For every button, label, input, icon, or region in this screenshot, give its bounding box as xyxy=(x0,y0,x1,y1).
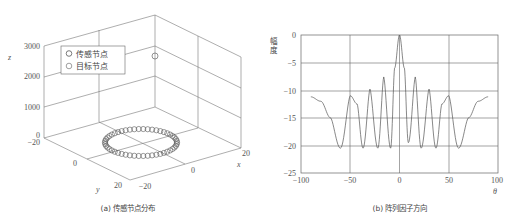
y-axis-label: y xyxy=(95,185,100,194)
sensor-node-marker xyxy=(165,131,170,136)
xaxis-tick-50: 50 xyxy=(445,176,453,185)
legend-item-sensor: 传感节点 xyxy=(76,49,108,59)
y-tick-20: 20 xyxy=(114,181,122,190)
caption-b: (b) 阵列因子方向 xyxy=(373,203,428,213)
yaxis-tick-neg20: −20 xyxy=(283,142,296,151)
yaxis-tick-0: 0 xyxy=(292,31,296,40)
z-tick-2000: 2000 xyxy=(24,72,40,81)
yaxis-tick-neg5: −5 xyxy=(287,59,296,68)
xaxis-tick-neg50: −50 xyxy=(344,176,357,185)
yaxis-label-char1: 幅 xyxy=(270,36,278,46)
legend-item-target: 目标节点 xyxy=(76,61,108,71)
sensor-node-marker xyxy=(119,151,124,156)
legend: 传感节点 目标节点 xyxy=(61,46,125,74)
z-axis-label: z xyxy=(7,53,12,62)
x-tick-20: 20 xyxy=(242,149,250,158)
x-tick-0: 0 xyxy=(191,166,195,175)
xaxis-label-theta: θ xyxy=(493,187,497,196)
sensor-node-marker xyxy=(115,150,120,155)
xaxis-tick-100: 100 xyxy=(491,176,503,185)
y-tick-neg20: −20 xyxy=(27,138,40,147)
z-tick-3000: 3000 xyxy=(24,42,40,51)
xaxis-tick-0: 0 xyxy=(398,176,402,185)
sensor-node-marker xyxy=(104,137,109,142)
x-tick-neg20: −20 xyxy=(139,182,152,191)
sensor-node-marker xyxy=(165,149,170,154)
chart-array-factor: 0 −5 −10 −15 −20 −25 幅 度 −100 −50 0 50 1… xyxy=(270,31,503,213)
3d-box-frame xyxy=(44,15,241,180)
figure: 3000 2000 1000 0 z −20 0 20 y −20 0 20 x… xyxy=(0,0,512,222)
sensor-node-marker xyxy=(173,143,178,148)
caption-a: (a) 传感节点分布 xyxy=(101,203,157,213)
sensor-node-marker xyxy=(161,130,166,135)
x-axis-label: x xyxy=(236,160,241,169)
yaxis-label-char2: 度 xyxy=(270,45,278,55)
y-tick-0: 0 xyxy=(73,159,77,168)
sensor-node-marker xyxy=(158,129,163,134)
sensor-node-marker xyxy=(112,131,117,136)
xaxis-tick-neg100: −100 xyxy=(293,176,310,185)
yaxis-tick-neg10: −10 xyxy=(283,87,296,96)
z-tick-1000: 1000 xyxy=(24,103,40,112)
chart-3d-sensor-distribution: 3000 2000 1000 0 z −20 0 20 y −20 0 20 x… xyxy=(7,15,250,213)
yaxis-tick-neg15: −15 xyxy=(283,114,296,123)
grid xyxy=(301,35,498,173)
